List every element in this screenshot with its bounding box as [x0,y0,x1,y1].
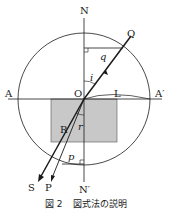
label-O: O [74,88,82,99]
label-A-prime: A′ [154,88,165,99]
label-i: i [90,72,93,83]
label-N-prime: N′ [79,184,91,195]
figure-caption: 図式法の説明 [73,198,127,209]
right-angle-bottom [80,160,84,164]
arrow-P [51,175,55,182]
label-A: A [4,88,13,99]
incident-ray [84,36,131,99]
label-N: N [80,5,89,16]
figure-number: 図 2 [45,199,63,209]
label-q: q [100,51,106,62]
label-P: P [45,182,52,193]
label-Q: Q [127,28,135,39]
label-R: R [60,124,68,135]
label-S: S [28,182,35,193]
right-angle-top [84,48,88,52]
arrow-incident [103,70,108,75]
refraction-diagram: N Q q i A O L A′ R r p S P N′ 図 2 図式法の説明 [0,0,169,212]
label-p: p [68,151,75,162]
label-L: L [114,88,121,99]
